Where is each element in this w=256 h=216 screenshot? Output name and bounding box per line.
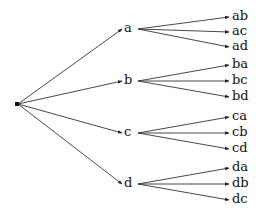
leaf-label-ba: ba (232, 56, 248, 71)
root-node (15, 102, 19, 106)
leaf-label-bd: bd (232, 88, 249, 103)
leaf-label-db: db (232, 175, 249, 190)
edge-c-cd (138, 133, 229, 149)
leaf-label-cd: cd (232, 140, 248, 155)
edge-c-ca (138, 117, 229, 133)
edge-d-dc (138, 184, 229, 200)
leaf-label-ac: ac (232, 23, 247, 38)
leaf-label-ad: ad (232, 38, 248, 53)
node-label-a: a (124, 20, 132, 35)
node-label-b: b (124, 72, 132, 87)
leaf-label-ca: ca (232, 108, 247, 123)
leaf-label-da: da (232, 159, 248, 174)
leaf-label-cb: cb (232, 124, 248, 139)
edge-root-c (18, 104, 122, 133)
edge-b-ba (138, 65, 229, 81)
edge-root-d (18, 104, 122, 184)
node-label-d: d (124, 175, 132, 190)
leaf-label-dc: dc (232, 191, 248, 206)
edge-b-bd (138, 81, 229, 97)
edges (18, 17, 229, 200)
tree-diagram: aabacadbbabcbdccacbcdddadbdc (0, 0, 256, 216)
leaf-label-bc: bc (232, 72, 248, 87)
edge-a-ab (138, 17, 229, 29)
node-label-c: c (124, 124, 131, 139)
leaf-label-ab: ab (232, 8, 248, 23)
edge-d-da (138, 168, 229, 184)
